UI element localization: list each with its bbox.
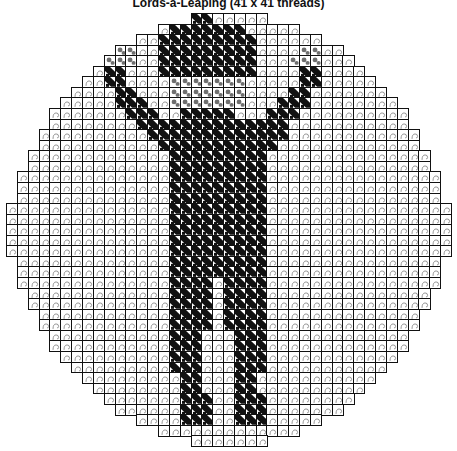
curl-glyph-icon bbox=[126, 299, 136, 309]
curl-glyph-icon bbox=[311, 172, 321, 182]
curl-glyph-icon bbox=[159, 331, 169, 341]
curl-glyph-icon bbox=[376, 183, 386, 193]
curl-glyph-icon bbox=[267, 151, 277, 161]
curl-glyph-icon bbox=[430, 236, 440, 246]
figure-glyph-icon bbox=[202, 67, 212, 77]
curl-glyph-icon bbox=[289, 225, 299, 235]
hand-glyph-icon bbox=[300, 56, 310, 66]
hand-glyph-icon bbox=[235, 77, 245, 87]
figure-glyph-icon bbox=[246, 278, 256, 288]
curl-glyph-icon bbox=[365, 236, 375, 246]
curl-glyph-icon bbox=[376, 215, 386, 225]
curl-glyph-icon bbox=[148, 278, 158, 288]
curl-glyph-icon bbox=[398, 257, 408, 267]
figure-glyph-icon bbox=[202, 141, 212, 151]
curl-glyph-icon bbox=[322, 183, 332, 193]
curl-glyph-icon bbox=[365, 373, 375, 383]
figure-glyph-icon bbox=[202, 289, 212, 299]
curl-glyph-icon bbox=[289, 172, 299, 182]
curl-glyph-icon bbox=[311, 310, 321, 320]
curl-glyph-icon bbox=[267, 194, 277, 204]
figure-glyph-icon bbox=[202, 46, 212, 56]
curl-glyph-icon bbox=[289, 384, 299, 394]
curl-glyph-icon bbox=[322, 394, 332, 404]
curl-glyph-icon bbox=[192, 436, 202, 446]
hand-glyph-icon bbox=[213, 88, 223, 98]
thread-cell bbox=[375, 362, 387, 374]
curl-glyph-icon bbox=[354, 341, 364, 351]
curl-glyph-icon bbox=[213, 352, 223, 362]
figure-glyph-icon bbox=[246, 331, 256, 341]
figure-glyph-icon bbox=[181, 162, 191, 172]
curl-glyph-icon bbox=[354, 88, 364, 98]
curl-glyph-icon bbox=[387, 257, 397, 267]
curl-glyph-icon bbox=[322, 310, 332, 320]
figure-glyph-icon bbox=[213, 120, 223, 130]
curl-glyph-icon bbox=[18, 172, 28, 182]
curl-glyph-icon bbox=[333, 394, 343, 404]
figure-glyph-icon bbox=[202, 172, 212, 182]
figure-glyph-icon bbox=[192, 151, 202, 161]
curl-glyph-icon bbox=[333, 46, 343, 56]
curl-glyph-icon bbox=[278, 415, 288, 425]
curl-glyph-icon bbox=[213, 331, 223, 341]
curl-glyph-icon bbox=[398, 236, 408, 246]
figure-glyph-icon bbox=[235, 363, 245, 373]
curl-glyph-icon bbox=[278, 194, 288, 204]
curl-glyph-icon bbox=[387, 310, 397, 320]
curl-glyph-icon bbox=[289, 35, 299, 45]
curl-glyph-icon bbox=[137, 299, 147, 309]
curl-glyph-icon bbox=[311, 236, 321, 246]
curl-glyph-icon bbox=[137, 246, 147, 256]
curl-glyph-icon bbox=[398, 331, 408, 341]
curl-glyph-icon bbox=[311, 225, 321, 235]
curl-glyph-icon bbox=[202, 341, 212, 351]
curl-glyph-icon bbox=[94, 183, 104, 193]
curl-glyph-icon bbox=[137, 35, 147, 45]
figure-glyph-icon bbox=[170, 162, 180, 172]
curl-glyph-icon bbox=[116, 373, 126, 383]
curl-glyph-icon bbox=[148, 225, 158, 235]
curl-glyph-icon bbox=[387, 341, 397, 351]
curl-glyph-icon bbox=[267, 35, 277, 45]
curl-glyph-icon bbox=[61, 236, 71, 246]
figure-glyph-icon bbox=[224, 130, 234, 140]
curl-glyph-icon bbox=[322, 77, 332, 87]
curl-glyph-icon bbox=[83, 141, 93, 151]
curl-glyph-icon bbox=[278, 204, 288, 214]
figure-glyph-icon bbox=[257, 320, 267, 330]
curl-glyph-icon bbox=[289, 299, 299, 309]
figure-glyph-icon bbox=[159, 141, 169, 151]
curl-glyph-icon bbox=[278, 183, 288, 193]
figure-glyph-icon bbox=[235, 236, 245, 246]
figure-glyph-icon bbox=[246, 394, 256, 404]
curl-glyph-icon bbox=[278, 172, 288, 182]
figure-glyph-icon bbox=[192, 14, 202, 24]
figure-glyph-icon bbox=[202, 109, 212, 119]
curl-glyph-icon bbox=[50, 320, 60, 330]
curl-glyph-icon bbox=[29, 299, 39, 309]
figure-glyph-icon bbox=[192, 278, 202, 288]
curl-glyph-icon bbox=[159, 162, 169, 172]
curl-glyph-icon bbox=[83, 225, 93, 235]
curl-glyph-icon bbox=[311, 394, 321, 404]
curl-glyph-icon bbox=[159, 299, 169, 309]
curl-glyph-icon bbox=[148, 204, 158, 214]
curl-glyph-icon bbox=[116, 172, 126, 182]
curl-glyph-icon bbox=[300, 141, 310, 151]
curl-glyph-icon bbox=[267, 88, 277, 98]
curl-glyph-icon bbox=[72, 341, 82, 351]
curl-glyph-icon bbox=[213, 289, 223, 299]
figure-glyph-icon bbox=[202, 246, 212, 256]
curl-glyph-icon bbox=[322, 46, 332, 56]
curl-glyph-icon bbox=[148, 194, 158, 204]
figure-glyph-icon bbox=[192, 415, 202, 425]
curl-glyph-icon bbox=[137, 194, 147, 204]
curl-glyph-icon bbox=[29, 225, 39, 235]
curl-glyph-icon bbox=[365, 98, 375, 108]
curl-glyph-icon bbox=[148, 67, 158, 77]
curl-glyph-icon bbox=[398, 289, 408, 299]
figure-glyph-icon bbox=[181, 183, 191, 193]
curl-glyph-icon bbox=[257, 46, 267, 56]
curl-glyph-icon bbox=[83, 246, 93, 256]
